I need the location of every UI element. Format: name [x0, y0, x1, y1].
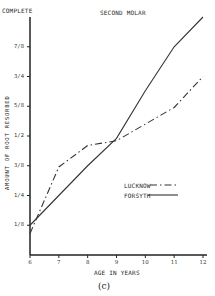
chart-plot: [0, 0, 215, 296]
x-axis-label: AGE IN YEARS: [94, 269, 140, 276]
x-tick-label: 9: [110, 259, 124, 265]
series-lucknow: [30, 77, 203, 234]
x-tick-label: 11: [167, 259, 181, 265]
y-tick-label: 7/8: [2, 43, 24, 49]
x-tick-label: 7: [52, 259, 66, 265]
y-tick-label: 1/8: [2, 221, 24, 227]
x-tick-label: 10: [138, 259, 152, 265]
x-tick-label: 8: [81, 259, 95, 265]
legend-lucknow-label: LUCKNOW: [124, 182, 151, 189]
legend-forsyth-label: FORSYTH: [124, 192, 151, 199]
x-tick-label: 12: [196, 259, 210, 265]
y-axis-label: AMOUNT OF ROOT RESORBED: [4, 95, 10, 190]
figure-caption: (c): [98, 281, 110, 291]
y-tick-label: 3/4: [2, 73, 24, 79]
series-forsyth: [30, 17, 203, 225]
y-tick-label: 1/4: [2, 192, 24, 198]
x-tick-label: 6: [23, 259, 37, 265]
